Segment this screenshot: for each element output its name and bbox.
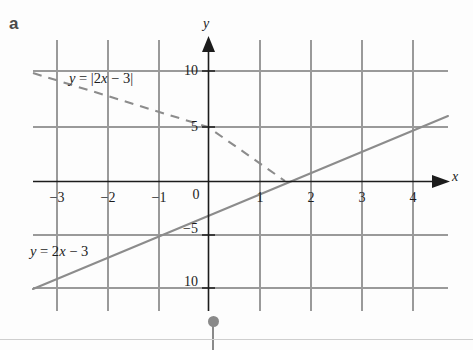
coordinate-plane-graph <box>0 0 473 350</box>
curve-label-linear: y = 2x − 3 <box>30 243 88 260</box>
x-tick-label-neg2: −2 <box>93 190 123 206</box>
x-tick-label-neg3: −3 <box>42 190 72 206</box>
pin-stem <box>212 326 214 350</box>
x-tick-label-3: 3 <box>352 190 372 206</box>
x-tick-label-2: 2 <box>301 190 321 206</box>
x-axis-label: x <box>452 169 458 185</box>
y-axis-label: y <box>203 16 209 32</box>
figure-page: a <box>0 0 473 350</box>
y-tick-label-neg10: 10 <box>168 274 198 290</box>
origin-label: 0 <box>186 187 206 203</box>
page-edge-line <box>0 339 473 340</box>
x-tick-label-1: 1 <box>250 190 270 206</box>
y-tick-label-10: 10 <box>168 63 198 79</box>
y-tick-label-neg5: −5 <box>168 221 198 237</box>
x-axis-arrowhead <box>432 175 450 188</box>
x-tick-label-neg1: −1 <box>144 190 174 206</box>
y-axis-arrowhead <box>202 36 215 52</box>
x-tick-label-4: 4 <box>403 190 423 206</box>
horizontal-gridlines <box>33 71 448 288</box>
y-tick-label-5: 5 <box>168 119 198 135</box>
curve-label-absolute-value: y = |2x − 3| <box>69 70 133 87</box>
